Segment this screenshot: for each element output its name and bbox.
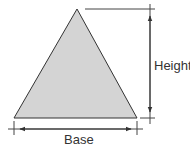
base-label: Base [64, 132, 94, 147]
height-label: Height [154, 58, 190, 73]
triangle-shape [14, 9, 137, 118]
triangle-diagram: Height Base [0, 0, 190, 148]
